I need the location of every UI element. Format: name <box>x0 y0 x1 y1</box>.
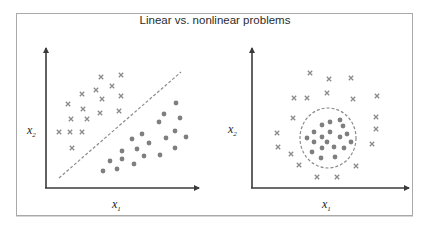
cross-marker <box>275 131 279 135</box>
cross-marker <box>85 117 89 121</box>
cross-marker <box>66 102 70 106</box>
cross-marker <box>315 175 319 179</box>
cross-marker <box>119 94 123 98</box>
dot-marker <box>120 149 125 154</box>
dot-marker <box>162 112 167 117</box>
cross-marker <box>98 111 102 115</box>
dot-marker <box>312 140 317 145</box>
cross-marker <box>80 130 84 134</box>
cross-marker <box>276 145 280 149</box>
dot-marker <box>157 120 162 125</box>
dot-marker <box>320 135 325 140</box>
dot-marker <box>320 146 325 151</box>
class-a-crosses <box>57 73 123 150</box>
dot-marker <box>108 159 113 164</box>
dot-marker <box>147 141 152 146</box>
figure-canvas: x2 x1 x2 x1 <box>0 0 430 228</box>
dot-marker <box>140 132 145 137</box>
cross-marker <box>370 142 374 146</box>
dot-marker <box>305 136 310 141</box>
cross-marker <box>117 109 121 113</box>
dot-marker <box>158 153 163 158</box>
cross-marker <box>375 94 379 98</box>
dot-marker <box>341 124 346 129</box>
dot-marker <box>328 120 333 125</box>
dot-marker <box>338 135 343 140</box>
cross-marker <box>99 75 103 79</box>
class-a-crosses <box>275 71 379 179</box>
dot-marker <box>174 101 179 106</box>
right-ylabel: x2 <box>227 122 237 138</box>
dot-marker <box>345 132 350 137</box>
cross-marker <box>70 146 74 150</box>
cross-marker <box>100 97 104 101</box>
dot-marker <box>173 146 178 151</box>
cross-marker <box>69 117 73 121</box>
cross-marker <box>94 88 98 92</box>
dot-marker <box>319 156 324 161</box>
right-plot-nonlinear: x2 x1 <box>227 48 409 213</box>
cross-marker <box>80 92 84 96</box>
left-xlabel: x1 <box>111 197 121 213</box>
cross-marker <box>325 91 329 95</box>
dot-marker <box>312 130 317 135</box>
right-xlabel: x1 <box>321 197 331 213</box>
dot-marker <box>328 130 333 135</box>
dot-marker <box>120 157 125 162</box>
dot-marker <box>101 169 106 174</box>
class-b-dots <box>305 118 354 161</box>
dot-marker <box>142 154 147 159</box>
dot-marker <box>115 167 120 172</box>
cross-marker <box>119 73 123 77</box>
dot-marker <box>338 118 343 123</box>
dot-marker <box>320 123 325 128</box>
class-b-dots <box>101 101 189 174</box>
cross-marker <box>374 127 378 131</box>
cross-marker <box>68 130 72 134</box>
linear-decision-boundary <box>59 72 181 178</box>
cross-marker <box>349 76 353 80</box>
cross-marker <box>291 116 295 120</box>
dot-marker <box>342 146 347 151</box>
cross-marker <box>305 96 309 100</box>
dot-marker <box>173 129 178 134</box>
dot-marker <box>178 116 183 121</box>
cross-marker <box>57 130 61 134</box>
left-ylabel: x2 <box>26 123 36 139</box>
dot-marker <box>184 135 189 140</box>
cross-marker <box>335 175 339 179</box>
left-plot-linear: x2 x1 <box>26 48 199 213</box>
cross-marker <box>289 152 293 156</box>
dot-marker <box>135 147 140 152</box>
cross-marker <box>297 163 301 167</box>
cross-marker <box>374 115 378 119</box>
dot-marker <box>164 136 169 141</box>
dot-marker <box>332 145 337 150</box>
dot-marker <box>349 140 354 145</box>
dot-marker <box>325 140 330 145</box>
cross-marker <box>351 97 355 101</box>
dot-marker <box>132 162 137 167</box>
cross-marker <box>354 164 358 168</box>
cross-marker <box>110 84 114 88</box>
cross-marker <box>308 71 312 75</box>
dot-marker <box>333 155 338 160</box>
dot-marker <box>310 150 315 155</box>
cross-marker <box>327 77 331 81</box>
cross-marker <box>292 96 296 100</box>
cross-marker <box>81 107 85 111</box>
dot-marker <box>130 137 135 142</box>
